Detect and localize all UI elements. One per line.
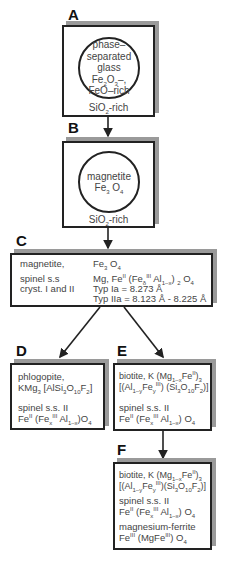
text: cryst. I and II — [20, 283, 74, 294]
text: separated — [87, 51, 131, 63]
label-d: D — [16, 342, 27, 359]
sio2-rich-label: SiO2-rich — [64, 214, 153, 225]
sio2-rich-label: SiO2-rich — [64, 102, 153, 113]
circle-magnetite: magnetite Fe3 O4 — [78, 151, 140, 213]
formula: FeII (FexIII Al1–x) O4 — [119, 413, 195, 424]
text: phlogopite, — [18, 371, 64, 382]
formula: Fe3 O4 — [93, 258, 121, 269]
text: magnetite — [87, 171, 131, 183]
box-b: magnetite Fe3 O4 SiO2-rich — [62, 141, 155, 228]
formula: [(Al1–yFeyIII)(Si3O10F2)] — [119, 481, 206, 492]
label-a: A — [68, 6, 79, 23]
text: phase– — [93, 39, 126, 51]
box-d: phlogopite, KMg3 [AlSi3O10F2] spinel s.s… — [10, 363, 105, 430]
formula-fe2o3: Fe2O3–, — [92, 74, 126, 86]
box-f: biotite, K (Mg1–xFeII)3 [(Al1–yFeyIII)(S… — [113, 462, 212, 550]
box-c: magnetite, spinel s.s cryst. I and II Fe… — [10, 253, 213, 307]
formula: FeIII (MgFeIII) O4 — [119, 532, 187, 543]
label-c: C — [16, 232, 27, 249]
formula: KMg3 [AlSi3O10F2] — [18, 382, 92, 393]
formula-fe3o4: Fe3 O4 — [95, 182, 124, 194]
formula: FeII (FexIII Al1–x)O4 — [18, 413, 92, 424]
circle-phase-separated-glass: phase– separated glass Fe2O3–, FeO–rich — [78, 37, 140, 99]
formula: FeII (FexIII Al1–x) O4 — [119, 506, 195, 517]
formula: [(Al1–yFeyIII) (Si3O10F2)] — [119, 382, 209, 393]
text: spinel s.s. II — [119, 495, 169, 506]
label-e: E — [117, 342, 127, 359]
label-f: F — [117, 441, 126, 458]
text: magnesium-ferrite — [119, 521, 196, 532]
text: spinel s.s. II — [18, 402, 68, 413]
text: spinel s.s. II — [119, 402, 169, 413]
arrow-c-to-d — [60, 307, 100, 357]
box-a: phase– separated glass Fe2O3–, FeO–rich … — [62, 25, 155, 117]
text: magnetite, — [20, 258, 64, 269]
box-e: biotite, K (Mg1–xFeII)3 [(Al1–yFeyIII) (… — [113, 363, 212, 431]
arrow-c-to-e — [124, 307, 163, 357]
text: Typ IIa = 8.123 Å - 8.225 Å — [93, 293, 206, 304]
text: glass — [97, 62, 120, 74]
text: FeO–rich — [88, 85, 129, 97]
label-b: B — [68, 119, 79, 136]
